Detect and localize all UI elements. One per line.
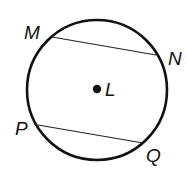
label-N: N bbox=[168, 48, 182, 69]
circle-diagram: M N P Q L bbox=[0, 0, 187, 176]
label-L: L bbox=[105, 79, 116, 100]
chord-MN bbox=[52, 37, 156, 55]
center-point bbox=[93, 85, 101, 93]
label-M: M bbox=[24, 22, 40, 43]
chord-PQ bbox=[38, 125, 143, 143]
label-Q: Q bbox=[146, 145, 161, 166]
label-P: P bbox=[15, 118, 28, 139]
